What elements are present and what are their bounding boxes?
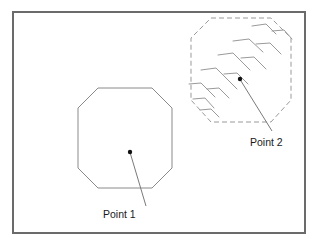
- point-marker-dot: [128, 150, 132, 154]
- point-marker-dot: [238, 77, 242, 81]
- point-label-text: Point 2: [250, 136, 283, 148]
- figure-canvas: Point 1Point 2: [0, 0, 318, 248]
- point-label-text: Point 1: [103, 208, 136, 220]
- figure-background: [0, 0, 318, 248]
- diagram-svg: Point 1Point 2: [0, 0, 318, 248]
